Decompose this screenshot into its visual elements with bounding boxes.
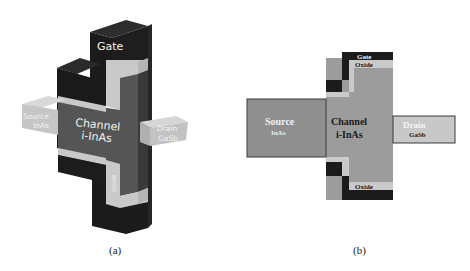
figure-b-2d-cross-section: Gate Oxide Oxide Channel i-InAs Source I… [235,0,470,271]
device-2d-drawing: Gate Oxide Oxide Channel i-InAs Source I… [235,0,470,271]
figure-a-3d-device: Gate Channel i-InAs Source InAs Drain Ga… [0,0,235,271]
gate-label-b: Gate [357,53,371,61]
source-region-b [247,99,326,157]
oxide-top-label-b: Oxide [355,61,373,69]
drain-label-b-line2: GaSb [409,131,426,139]
drain-label-b-line1: Drain [403,120,426,130]
channel-label-b-line1: Channel [331,116,367,127]
source-label-a-line2: InAs [33,121,49,130]
channel-label-b-line2: i-InAs [336,129,363,140]
oxide-label-a: Oxide [110,174,117,192]
source-label-b-line2: InAs [271,129,286,137]
drain-label-a-line2: GaSb [158,134,178,143]
gate-label-a: Gate [97,40,124,53]
source-label-b-line1: Source [265,116,295,127]
oxide-bottom-label-b: Oxide [355,183,373,191]
caption-b: (b) [353,244,366,256]
drain-label-a-line1: Drain [157,124,178,133]
source-label-a-line1: Source [23,112,49,121]
caption-a: (a) [109,244,121,256]
device-3d-drawing: Gate Channel i-InAs Source InAs Drain Ga… [0,0,235,271]
